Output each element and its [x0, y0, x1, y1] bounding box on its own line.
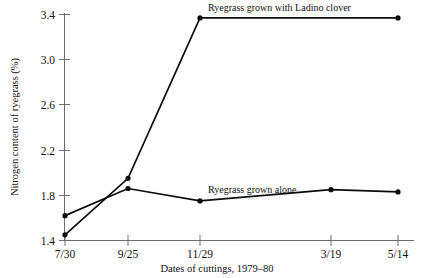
y-tick-label-1: 1.8	[41, 190, 56, 202]
data-point	[328, 187, 333, 192]
data-point	[125, 186, 130, 191]
series-label-alone: Ryegrass grown alone	[208, 184, 297, 195]
x-axis-title: Dates of cuttings, 1979–80	[160, 263, 273, 274]
y-tick-label-5: 3.4	[41, 9, 56, 21]
data-point	[395, 15, 400, 20]
data-point	[62, 213, 67, 218]
x-tick-label-0: 7/30	[55, 248, 76, 260]
y-tick-label-0: 1.4	[41, 235, 56, 247]
y-tick-label-3: 2.6	[41, 99, 56, 111]
data-point	[197, 15, 202, 20]
x-tick-label-2: 11/29	[187, 248, 213, 260]
data-point	[197, 198, 202, 203]
chart-figure: 3.4 3.0 2.6 2.2 1.8 1.4 7/30 9/25 11/29 …	[0, 0, 423, 278]
data-point	[125, 176, 130, 181]
series-label-clover: Ryegrass grown with Ladino clover	[208, 2, 352, 13]
series-line-clover	[65, 18, 398, 235]
series-points-clover	[62, 15, 400, 237]
y-axis-title: Nitrogen content of ryegrass (%)	[9, 57, 21, 196]
data-point	[62, 232, 67, 237]
y-tick-label-2: 2.2	[41, 145, 56, 157]
line-chart-canvas: 3.4 3.0 2.6 2.2 1.8 1.4 7/30 9/25 11/29 …	[0, 0, 423, 278]
x-tick-label-4: 5/14	[388, 248, 409, 260]
y-tick-label-4: 3.0	[41, 54, 56, 66]
x-tick-label-3: 3/19	[321, 248, 342, 260]
data-point	[395, 189, 400, 194]
x-tick-label-1: 9/25	[118, 248, 139, 260]
